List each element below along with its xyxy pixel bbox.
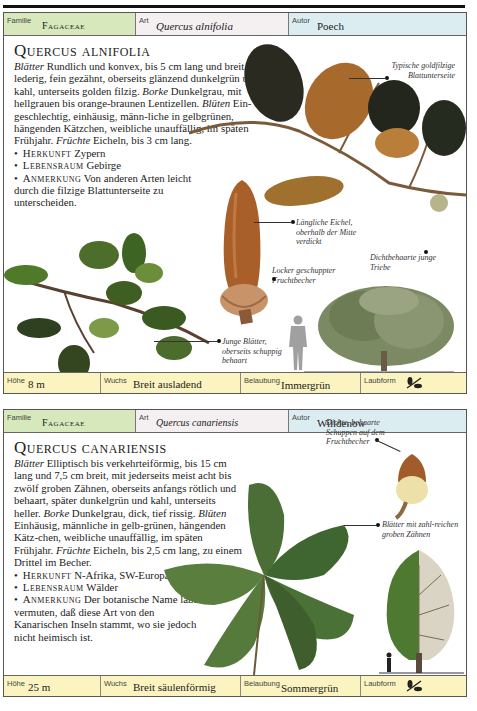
lebensraum-label: Lebensraum xyxy=(23,159,84,171)
art-value: Quercus alnifolia xyxy=(156,20,233,32)
lebensraum-text: Gebirge xyxy=(84,159,121,171)
hoehe-label: Höhe xyxy=(7,376,25,385)
familie-value: Fagaceae xyxy=(42,417,85,428)
laubform-label: Laubform xyxy=(364,679,396,688)
caption-laengliche-eichel: Längliche Eichel, oberhalb der Mitte ver… xyxy=(296,218,376,247)
caption-dichte-schuppen: Dichte, behaarte Schuppen auf dem Frucht… xyxy=(326,418,398,447)
caption-blaetter-zaehne: Blätter mit zahl-reichen groben Zähnen xyxy=(382,520,462,539)
leaf-sprig-icon xyxy=(405,679,423,693)
belaubung-label: Belaubung xyxy=(244,376,280,385)
familie-cell: Familie Fagaceae xyxy=(4,13,136,35)
art-cell: Art Quercus canariensis xyxy=(136,410,289,432)
autor-value: Poech xyxy=(317,20,344,32)
hoehe-value: 8 m xyxy=(28,378,45,390)
lebensraum-text: Wälder xyxy=(84,581,118,593)
familie-label: Familie xyxy=(7,16,31,25)
fruechte-label: Früchte xyxy=(56,544,90,556)
entry-footer: Höhe 8 m Wuchs Breit ausladend Belaubung… xyxy=(4,372,466,393)
callout-leader xyxy=(349,78,385,79)
belaubung-value: Immergrün xyxy=(281,379,330,391)
herkunft-bullet: Herkunft N-Afrika, SW-Europa xyxy=(14,569,174,581)
wuchs-cell: Wuchs Breit ausladend xyxy=(101,373,241,393)
art-label: Art xyxy=(139,16,149,25)
entry-footer: Höhe 25 m Wuchs Breit säulenförmig Belau… xyxy=(4,675,466,696)
borke-label: Borke xyxy=(43,507,69,519)
wuchs-cell: Wuchs Breit säulenförmig xyxy=(101,676,241,696)
fruechte-text: Eicheln, bis 3 cm lang. xyxy=(90,134,192,146)
hoehe-value: 25 m xyxy=(28,681,50,693)
species-entry-alnifolia: Familie Fagaceae Art Quercus alnifolia A… xyxy=(3,12,467,394)
entry-header: Familie Fagaceae Art Quercus alnifolia A… xyxy=(4,13,466,36)
blaetter-label: Blätter xyxy=(14,60,44,72)
familie-cell: Familie Fagaceae xyxy=(4,410,136,432)
callout-dot xyxy=(217,339,221,343)
anmerkung-bullet: Anmerkung Von anderen Arten leicht durch… xyxy=(14,172,209,209)
wuchs-label: Wuchs xyxy=(104,376,127,385)
callout-leader xyxy=(254,222,292,223)
familie-label: Familie xyxy=(7,413,31,422)
lebensraum-label: Lebensraum xyxy=(23,581,84,593)
familie-value: Fagaceae xyxy=(42,20,85,31)
caption-dichtbehaarte-triebe: Dichtbehaarte junge Triebe xyxy=(370,253,440,272)
laubform-cell: Laubform xyxy=(361,676,466,696)
mature-tree-illustration xyxy=(304,281,466,376)
species-title: Quercus alnifolia xyxy=(14,41,150,61)
callout-dot xyxy=(385,76,389,80)
laubform-cell: Laubform xyxy=(361,373,466,393)
callout-leader xyxy=(154,341,217,342)
herkunft-text: Zypern xyxy=(71,147,105,159)
wuchs-value: Breit säulenförmig xyxy=(133,681,216,693)
borke-label: Borke xyxy=(142,85,168,97)
autor-label: Autor xyxy=(292,16,310,25)
blaetter-label: Blätter xyxy=(14,457,44,469)
belaubung-cell: Belaubung Sommergrün xyxy=(241,676,361,696)
anmerkung-label: Anmerkung xyxy=(23,593,82,605)
anmerkung-label: Anmerkung xyxy=(23,172,82,184)
leaf-cluster-illustration xyxy=(154,475,374,675)
hoehe-cell: Höhe 8 m xyxy=(4,373,101,393)
laubform-label: Laubform xyxy=(364,376,396,385)
acorn-illustration xyxy=(392,452,432,522)
art-label: Art xyxy=(139,413,149,422)
tree-with-scale-illustration xyxy=(379,545,464,677)
caption-fruchtbecher: Locker geschuppter Fruchtbecher xyxy=(272,266,348,285)
wuchs-value: Breit ausladend xyxy=(133,378,202,390)
autor-label: Autor xyxy=(292,413,310,422)
leaf-sprig-icon xyxy=(405,376,423,390)
herkunft-label: Herkunft xyxy=(23,147,72,159)
art-cell: Art Quercus alnifolia xyxy=(136,13,289,35)
wuchs-label: Wuchs xyxy=(104,679,127,688)
belaubung-label: Belaubung xyxy=(244,679,280,688)
callout-dot xyxy=(376,523,380,527)
hoehe-label: Höhe xyxy=(7,679,25,688)
belaubung-value: Sommergrün xyxy=(281,682,338,694)
top-rule xyxy=(3,5,465,8)
callout-leader xyxy=(344,525,376,526)
caption-junge-blaetter: Junge Blätter, oberseits schuppig behaar… xyxy=(222,337,290,366)
young-twig-illustration xyxy=(4,233,224,388)
callout-dot xyxy=(272,277,276,281)
callout-dot xyxy=(424,250,428,254)
autor-cell: Autor Poech xyxy=(289,13,466,35)
art-value: Quercus canariensis xyxy=(156,417,238,428)
hoehe-cell: Höhe 25 m xyxy=(4,676,101,696)
herkunft-label: Herkunft xyxy=(23,569,72,581)
species-entry-canariensis: Familie Fagaceae Art Quercus canariensis… xyxy=(3,409,467,697)
species-title: Quercus canariensis xyxy=(14,438,167,458)
belaubung-cell: Belaubung Immergrün xyxy=(241,373,361,393)
fruechte-label: Früchte xyxy=(56,134,90,146)
